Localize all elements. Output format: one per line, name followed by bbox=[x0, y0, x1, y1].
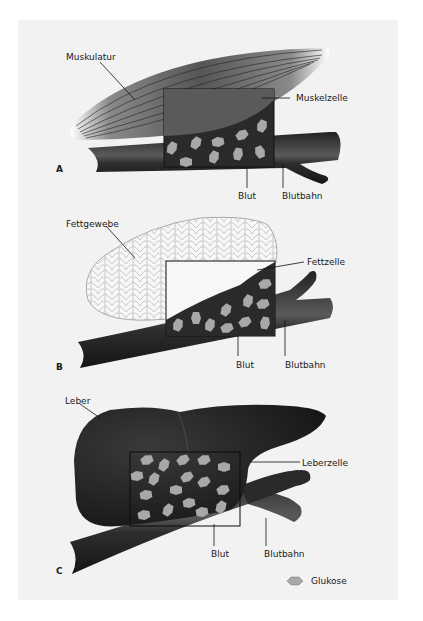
label-leber: Leber bbox=[65, 396, 91, 406]
label-muskelzelle: Muskelzelle bbox=[296, 93, 348, 103]
legend-label-glukose: Glukose bbox=[311, 576, 347, 586]
label-fettzelle: Fettzelle bbox=[307, 257, 346, 267]
label-leberzelle: Leberzelle bbox=[302, 458, 349, 468]
hexagon-icon bbox=[287, 577, 303, 585]
panel-letter-c: C bbox=[56, 566, 63, 576]
panel-b: Fettgewebe Fettzelle Blut Blutbahn B bbox=[56, 217, 346, 372]
label-blut-c: Blut bbox=[211, 549, 229, 559]
panel-letter-b: B bbox=[56, 362, 63, 372]
panel-a: Muskulatur Muskelzelle Blut Blutbahn A bbox=[56, 48, 348, 201]
label-blutbahn-c: Blutbahn bbox=[264, 549, 305, 559]
muscle-cell-inset bbox=[164, 89, 274, 167]
label-blut-a: Blut bbox=[238, 191, 256, 201]
panel-c: Leber Leberzelle Blut Blutbahn C bbox=[56, 396, 349, 576]
label-fettgewebe: Fettgewebe bbox=[66, 219, 119, 229]
label-blutbahn-b: Blutbahn bbox=[285, 360, 326, 370]
label-blut-b: Blut bbox=[236, 360, 254, 370]
label-muskulatur: Muskulatur bbox=[66, 52, 116, 62]
panel-letter-a: A bbox=[56, 164, 63, 174]
legend: Glukose bbox=[287, 576, 347, 586]
fat-cell-inset bbox=[166, 261, 275, 336]
label-blutbahn-a: Blutbahn bbox=[282, 191, 323, 201]
glucose-uptake-figure: Muskulatur Muskelzelle Blut Blutbahn A bbox=[0, 0, 423, 621]
